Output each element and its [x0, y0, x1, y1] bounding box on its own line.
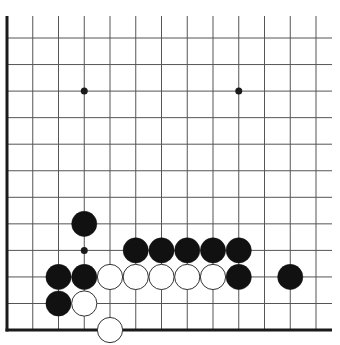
black-stone — [72, 264, 97, 289]
white-stone — [200, 264, 225, 289]
black-stone — [278, 264, 303, 289]
white-stone — [97, 317, 122, 342]
black-stone — [200, 238, 225, 263]
black-stone — [46, 264, 71, 289]
white-stone — [72, 291, 97, 316]
star-point — [81, 88, 88, 95]
white-stone — [149, 264, 174, 289]
white-stone — [97, 264, 122, 289]
white-stone — [123, 264, 148, 289]
star-point — [81, 247, 88, 254]
black-stone — [149, 238, 174, 263]
black-stone — [123, 238, 148, 263]
star-point — [235, 88, 242, 95]
white-stone — [175, 264, 200, 289]
black-stone — [46, 291, 71, 316]
go-board — [0, 0, 340, 345]
black-stone — [72, 211, 97, 236]
black-stone — [226, 264, 251, 289]
black-stone — [226, 238, 251, 263]
black-stone — [175, 238, 200, 263]
